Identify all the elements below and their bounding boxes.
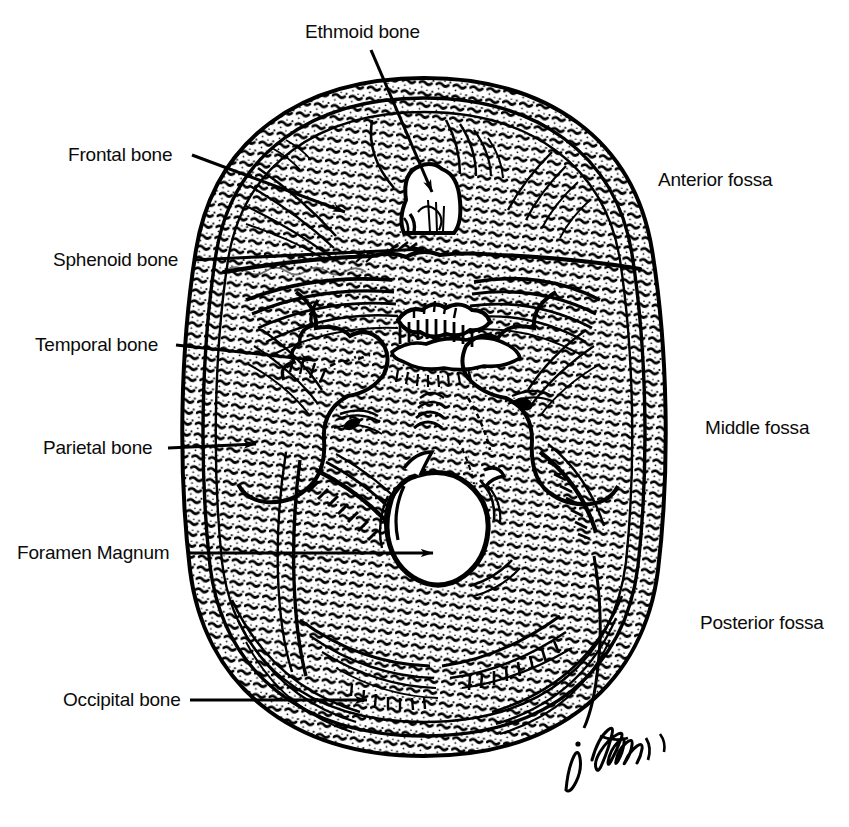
label-occipital-bone: Occipital bone xyxy=(63,690,181,709)
label-temporal-bone: Temporal bone xyxy=(35,335,158,354)
label-anterior-fossa: Anterior fossa xyxy=(658,170,772,189)
figure-page: Ethmoid bone Frontal bone Sphenoid bone … xyxy=(0,0,849,827)
label-foramen-magnum: Foramen Magnum xyxy=(17,543,169,562)
label-frontal-bone: Frontal bone xyxy=(68,145,172,164)
label-parietal-bone: Parietal bone xyxy=(43,438,152,457)
label-middle-fossa: Middle fossa xyxy=(705,418,809,437)
label-posterior-fossa: Posterior fossa xyxy=(700,613,824,632)
label-ethmoid-bone: Ethmoid bone xyxy=(305,22,420,41)
label-sphenoid-bone: Sphenoid bone xyxy=(53,250,178,269)
artist-signature xyxy=(566,728,665,791)
